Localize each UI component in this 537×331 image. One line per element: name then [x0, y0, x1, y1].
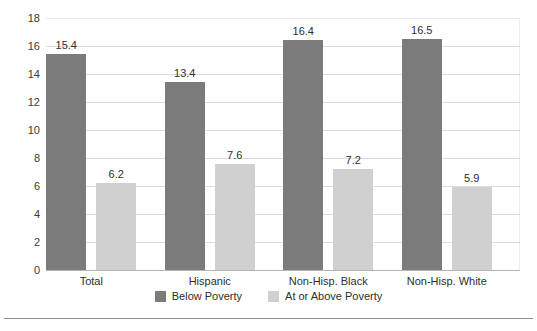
y-axis-tick-label: 16: [4, 41, 40, 52]
bar-at-or-above-poverty: [215, 164, 255, 270]
x-axis-category-label: Non-Hisp. White: [382, 275, 512, 287]
y-axis-tick-label: 12: [4, 97, 40, 108]
legend-swatch-icon-at-or-above-poverty: [268, 291, 279, 302]
y-axis-tick-label: 6: [4, 181, 40, 192]
legend-label-at-or-above-poverty: At or Above Poverty: [285, 291, 382, 302]
bar-value-label: 6.2: [96, 169, 136, 180]
plot-right-border: [519, 18, 520, 270]
bar-value-label: 7.6: [215, 150, 255, 161]
footer-divider: [4, 318, 533, 319]
bar-value-label: 16.5: [402, 25, 442, 36]
y-axis-tick-label: 0: [4, 265, 40, 276]
bar-below-poverty: [283, 40, 323, 270]
bar-value-label: 16.4: [283, 26, 323, 37]
x-axis-line: [46, 270, 520, 271]
bar-chart: 024681012141618 15.46.213.47.616.47.216.…: [0, 0, 537, 331]
bar-value-label: 7.2: [333, 155, 373, 166]
chart-legend: Below Poverty At or Above Poverty: [0, 291, 537, 302]
bar-value-label: 5.9: [452, 173, 492, 184]
y-axis: 024681012141618: [0, 18, 40, 270]
y-axis-tick-label: 10: [4, 125, 40, 136]
bar-at-or-above-poverty: [96, 183, 136, 270]
legend-swatch-icon-below-poverty: [155, 291, 166, 302]
bar-below-poverty: [165, 82, 205, 270]
x-axis-category-label: Non-Hisp. Black: [263, 275, 393, 287]
bar-below-poverty: [402, 39, 442, 270]
x-axis-category-label: Hispanic: [145, 275, 275, 287]
bar-value-label: 13.4: [165, 68, 205, 79]
bar-below-poverty: [46, 54, 86, 270]
y-axis-tick-label: 4: [4, 209, 40, 220]
legend-item-at-or-above-poverty[interactable]: At or Above Poverty: [268, 291, 382, 302]
bar-value-label: 15.4: [46, 40, 86, 51]
y-axis-tick-label: 8: [4, 153, 40, 164]
legend-item-below-poverty[interactable]: Below Poverty: [155, 291, 242, 302]
gridline: [46, 18, 520, 19]
legend-label-below-poverty: Below Poverty: [172, 291, 242, 302]
y-axis-tick-label: 18: [4, 13, 40, 24]
bar-at-or-above-poverty: [452, 187, 492, 270]
x-axis-category-label: Total: [26, 275, 156, 287]
bar-at-or-above-poverty: [333, 169, 373, 270]
plot-area: 15.46.213.47.616.47.216.55.9: [46, 18, 520, 270]
y-axis-tick-label: 2: [4, 237, 40, 248]
y-axis-tick-label: 14: [4, 69, 40, 80]
